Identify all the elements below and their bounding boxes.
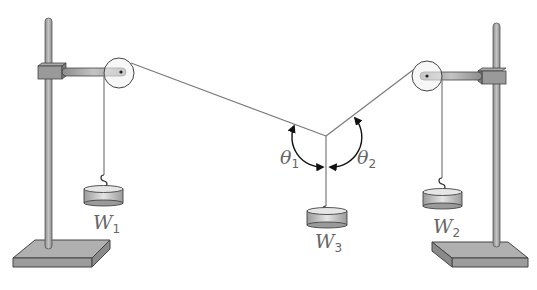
left-string xyxy=(131,63,326,136)
angle-arcs xyxy=(292,118,362,167)
hooks xyxy=(101,175,445,218)
label-theta1: θ1 xyxy=(280,146,299,171)
left-rod xyxy=(45,18,52,249)
equilibrium-diagram: W1 W2 W3 θ1 θ2 xyxy=(0,0,537,290)
strings xyxy=(104,63,442,206)
left-pulley xyxy=(104,58,134,88)
right-base xyxy=(432,242,528,267)
weight-w1 xyxy=(84,186,123,207)
right-string xyxy=(326,70,413,136)
right-rod xyxy=(493,23,500,247)
label-w1: W1 xyxy=(93,211,120,236)
weight-w3 xyxy=(307,208,347,229)
label-w3: W3 xyxy=(315,230,342,255)
label-theta2: θ2 xyxy=(357,146,376,171)
left-base xyxy=(13,240,110,267)
weight-w2 xyxy=(423,189,462,210)
right-stand xyxy=(412,23,528,267)
label-w2: W2 xyxy=(433,215,460,240)
